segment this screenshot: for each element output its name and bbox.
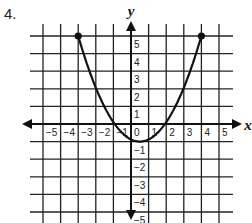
x-tick-label: 4 — [204, 127, 210, 138]
x-tick-label: −5 — [46, 127, 58, 138]
x-axis-label: x — [243, 117, 252, 133]
y-tick-label: −1 — [134, 145, 146, 156]
x-tick-label: 0 — [134, 127, 140, 138]
x-tick-label: 3 — [187, 127, 193, 138]
endpoint-dot — [75, 32, 82, 39]
y-tick-label: 4 — [134, 57, 140, 68]
endpoint-dot — [198, 32, 205, 39]
y-axis-label: y — [126, 3, 135, 19]
coordinate-plane: xy−5−4−3−2−101234554321−1−2−3−4−5 — [0, 0, 252, 223]
y-axis-up-arrow-icon — [126, 21, 136, 31]
y-tick-label: −4 — [134, 197, 146, 208]
x-tick-label: −2 — [99, 127, 111, 138]
x-axis-right-arrow-icon — [232, 119, 242, 129]
x-axis-left-arrow-icon — [22, 119, 32, 129]
x-tick-label: 2 — [169, 127, 175, 138]
y-tick-label: 1 — [134, 109, 140, 120]
y-tick-label: −3 — [134, 180, 146, 191]
y-tick-label: −2 — [134, 162, 146, 173]
x-tick-label: −3 — [81, 127, 93, 138]
y-tick-label: 3 — [134, 74, 140, 85]
y-tick-label: −5 — [134, 215, 146, 223]
x-tick-label: 5 — [222, 127, 228, 138]
y-tick-label: 5 — [134, 39, 140, 50]
y-tick-label: 2 — [134, 92, 140, 103]
x-tick-label: −4 — [64, 127, 76, 138]
